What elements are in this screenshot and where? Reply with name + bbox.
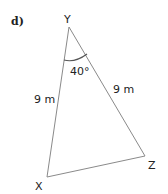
- side-label-xy: 9 m: [34, 93, 55, 106]
- angle-arc-y: [64, 54, 87, 61]
- vertex-label-y: Y: [63, 13, 71, 26]
- triangle-xyz: [47, 27, 145, 177]
- vertex-label-z: Z: [148, 159, 156, 172]
- triangle-diagram: d) Y X Z 40° 9 m 9 m: [0, 0, 168, 194]
- angle-label-y: 40°: [70, 65, 90, 78]
- part-label: d): [11, 15, 24, 28]
- vertex-label-x: X: [35, 180, 43, 193]
- side-label-yz: 9 m: [113, 83, 134, 96]
